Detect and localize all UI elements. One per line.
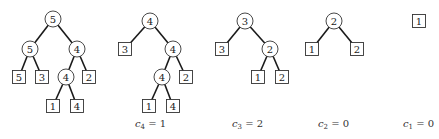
tree-4-nodes: 212 bbox=[306, 13, 364, 56]
leaf-node: 4 bbox=[71, 100, 84, 113]
leaf-node: 1 bbox=[143, 100, 156, 113]
internal-node: 5 bbox=[22, 41, 38, 57]
node-label: 3 bbox=[242, 16, 248, 27]
node-label: 3 bbox=[219, 44, 225, 55]
node-label: 1 bbox=[309, 44, 315, 55]
leaf-node: 2 bbox=[83, 71, 96, 84]
node-label: 5 bbox=[16, 72, 22, 83]
tree-2 bbox=[125, 21, 186, 106]
node-label: 4 bbox=[170, 44, 176, 55]
node-label: 2 bbox=[279, 72, 285, 83]
leaf-node: 4 bbox=[167, 100, 180, 113]
caption-value: 0 bbox=[343, 118, 349, 129]
node-label: 3 bbox=[39, 72, 45, 83]
node-label: 4 bbox=[63, 72, 69, 83]
leaf-node: 2 bbox=[180, 71, 193, 84]
tree-5-nodes: 1 bbox=[413, 15, 426, 28]
node-label: 4 bbox=[147, 16, 153, 27]
tree-3-nodes: 33212 bbox=[216, 13, 289, 84]
internal-node: 4 bbox=[142, 13, 158, 29]
leaf-node: 3 bbox=[216, 43, 229, 56]
internal-node: 2 bbox=[262, 41, 278, 57]
node-label: 2 bbox=[267, 44, 273, 55]
internal-node: 4 bbox=[58, 69, 74, 85]
cost-caption: c3 = 2 bbox=[232, 118, 263, 131]
internal-node: 4 bbox=[69, 41, 85, 57]
node-label: 5 bbox=[27, 44, 33, 55]
node-label: 3 bbox=[122, 44, 128, 55]
internal-node: 5 bbox=[45, 11, 61, 27]
node-label: 4 bbox=[170, 101, 176, 112]
leaf-node: 1 bbox=[306, 43, 319, 56]
edges-layer bbox=[19, 19, 357, 106]
internal-node: 2 bbox=[326, 13, 342, 29]
leaf-node: 1 bbox=[47, 100, 60, 113]
node-label: 1 bbox=[50, 101, 56, 112]
cost-caption: c2 = 0 bbox=[318, 118, 349, 131]
caption-equals: = bbox=[413, 118, 428, 129]
node-label: 2 bbox=[354, 44, 360, 55]
caption-equals: = bbox=[328, 118, 343, 129]
internal-node: 4 bbox=[165, 41, 181, 57]
caption-equals: = bbox=[242, 118, 257, 129]
node-label: 2 bbox=[183, 72, 189, 83]
caption-equals: = bbox=[145, 118, 160, 129]
node-label: 4 bbox=[74, 44, 80, 55]
node-label: 5 bbox=[50, 14, 56, 25]
leaf-node: 1 bbox=[413, 15, 426, 28]
leaf-node: 3 bbox=[36, 71, 49, 84]
node-label: 4 bbox=[159, 72, 165, 83]
leaf-node: 2 bbox=[351, 43, 364, 56]
node-label: 1 bbox=[146, 101, 152, 112]
leaf-node: 1 bbox=[252, 71, 265, 84]
caption-value: 2 bbox=[257, 118, 263, 129]
caption-value: 1 bbox=[160, 118, 166, 129]
node-label: 2 bbox=[331, 16, 337, 27]
node-label: 1 bbox=[255, 72, 261, 83]
cost-caption: c4 = 1 bbox=[135, 118, 166, 131]
leaf-node: 5 bbox=[13, 71, 26, 84]
leaf-node: 3 bbox=[119, 43, 132, 56]
internal-node: 4 bbox=[154, 69, 170, 85]
caption-value: 0 bbox=[428, 118, 434, 129]
leaf-node: 2 bbox=[276, 71, 289, 84]
node-label: 4 bbox=[74, 101, 80, 112]
node-label: 2 bbox=[86, 72, 92, 83]
cost-caption: c1 = 0 bbox=[403, 118, 434, 131]
internal-node: 3 bbox=[237, 13, 253, 29]
tree-diagram: 5545342144344214332122121 bbox=[0, 0, 439, 139]
node-label: 1 bbox=[416, 16, 422, 27]
tree-1 bbox=[19, 19, 89, 106]
